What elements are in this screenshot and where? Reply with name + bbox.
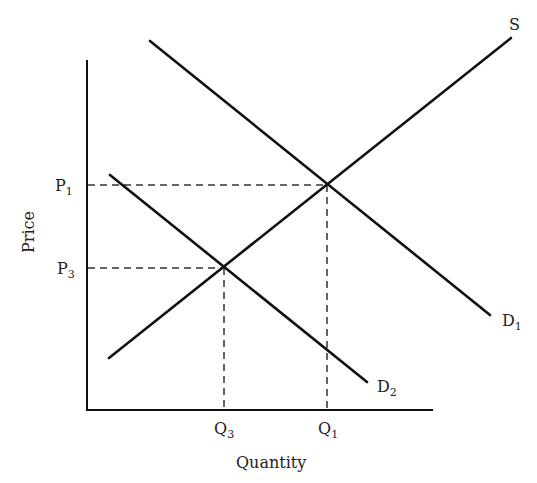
guide-lines	[88, 185, 327, 409]
quantity-label-q1: Q1	[318, 419, 338, 441]
demand-curve-1	[150, 41, 490, 315]
quantity-label-q3: Q3	[214, 419, 234, 441]
price-label-p3: P3	[57, 259, 75, 281]
x-axis-title: Quantity	[236, 453, 306, 472]
price-label-p1: P1	[55, 176, 73, 198]
supply-demand-diagram: S D1 D2 P1 P3 Q3 Q1 Quantity Price	[0, 0, 537, 483]
curves	[109, 38, 511, 382]
demand-1-label: D1	[502, 311, 522, 333]
demand-curve-2	[110, 175, 367, 382]
supply-curve	[109, 38, 511, 358]
axes	[86, 60, 433, 411]
y-axis-title: Price	[19, 211, 38, 253]
supply-label: S	[509, 15, 520, 34]
demand-2-label: D2	[377, 377, 397, 399]
